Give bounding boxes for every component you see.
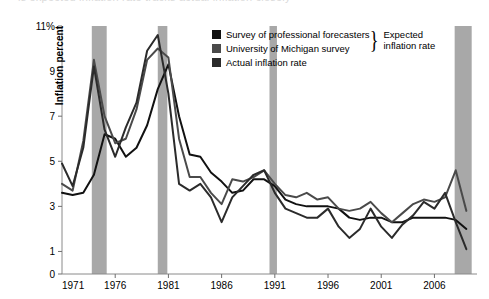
brace-icon: } <box>370 28 379 52</box>
legend-brace-text: Expected inflation rate <box>380 29 435 51</box>
y-axis-label: Inflation percent <box>54 1 65 131</box>
x-tick-label-3: 1986 <box>210 280 233 291</box>
y-tick-label-0: 0 <box>49 269 55 280</box>
legend-item-actual[interactable]: Actual inflation rate <box>212 56 370 68</box>
y-tick-label-1: 1 <box>49 246 55 257</box>
series-line-0 <box>62 64 466 229</box>
legend-swatch-actual <box>212 58 221 67</box>
legend-label-actual: Actual inflation rate <box>226 57 307 68</box>
x-tick-label-5: 1996 <box>317 280 340 291</box>
legend-label-spf: Survey of professional forecasters <box>226 29 370 40</box>
x-tick-label-0: 1971 <box>62 280 85 291</box>
legend-item-spf[interactable]: Survey of professional forecasters <box>212 28 370 40</box>
x-tick-label-6: 2001 <box>370 280 393 291</box>
x-tick-label-7: 2006 <box>423 280 446 291</box>
chart-root: is expected inflation rate tracks actual… <box>0 0 489 299</box>
legend-label-umich: University of Michigan survey <box>226 43 350 54</box>
y-tick-label-2: 3 <box>49 201 55 212</box>
legend-brace-group: } Expected inflation rate <box>368 28 435 52</box>
x-tick-label-2: 1981 <box>157 280 180 291</box>
chart-legend: Survey of professional forecasters Unive… <box>212 28 370 70</box>
y-tick-label-6: 11% <box>36 21 55 32</box>
legend-swatch-spf <box>212 30 221 39</box>
y-tick-label-3: 5 <box>49 156 55 167</box>
legend-item-umich[interactable]: University of Michigan survey <box>212 42 370 54</box>
brace-text-line2: inflation rate <box>383 40 435 51</box>
x-tick-label-4: 1991 <box>264 280 287 291</box>
brace-text-line1: Expected <box>383 29 435 40</box>
x-tick-label-1: 1976 <box>104 280 127 291</box>
recession-band-3 <box>455 26 472 274</box>
legend-swatch-umich <box>212 44 221 53</box>
